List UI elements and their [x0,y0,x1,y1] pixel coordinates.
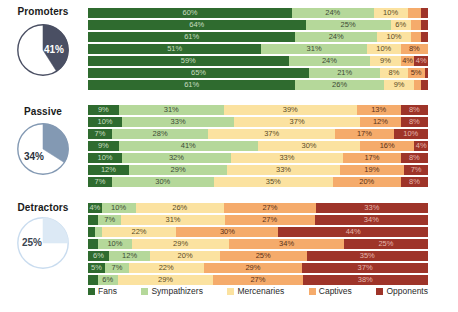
bar-segment-mercenaries: 29% [118,275,214,285]
bar-row: 5%7%22%29%37% [88,263,428,273]
bar-segment-fans: 12% [88,165,129,175]
segment-value-label: 7% [111,263,122,273]
bar-row: 12%29%33%19%7% [88,165,428,175]
bar-segment-fans: 7% [88,129,112,139]
bar-segment-captives: 13% [357,105,401,115]
segment-value-label: 10% [383,8,398,18]
segment-value-label: 26% [172,203,187,213]
bar-segment-fans: 6% [88,251,109,261]
segment-value-label: 29% [171,165,186,175]
segment-value-label: 31% [307,44,322,54]
bar-segment-sympathizers: 30% [112,177,214,187]
legend-label: Fans [98,286,117,296]
pie-detractors: 25% [8,215,78,271]
segment-value-label: 8% [389,68,400,78]
bar-segment-captives: 5% [408,68,425,78]
bar-segment-sympathizers: 7% [98,215,121,225]
bar-segment-fans: 61% [88,32,295,42]
segment-value-label: 8% [409,105,420,115]
bar-segment-fans [88,215,98,225]
bar-segment-opponents [421,20,428,30]
bar-row: 7%28%37%17%10% [88,129,428,139]
bar-row: 6%12%20%25%35% [88,251,428,261]
segment-value-label: 27% [250,275,265,285]
bar-segment-opponents: 37% [302,263,428,273]
bar-segment-captives: 27% [224,203,316,213]
segment-value-label: 30% [301,141,316,151]
segment-value-label: 6% [395,20,406,30]
bar-segment-mercenaries: 10% [377,32,411,42]
bar-row: 4%10%26%27%33% [88,203,428,213]
segment-value-label: 22% [131,227,146,237]
bar-segment-mercenaries: 8% [380,68,407,78]
legend-label: Opponents [386,286,428,296]
bar-segment-mercenaries: 26% [136,203,224,213]
segment-value-label: 16% [380,141,395,151]
legend: FansSympathizersMercenariesCaptivesOppon… [88,286,428,296]
bar-segment-captives [411,32,421,42]
segment-value-label: 12% [101,165,116,175]
pie-passive: 34% [8,121,78,177]
bar-segment-sympathizers: 26% [295,80,383,90]
legend-swatch-icon [309,288,316,295]
segment-value-label: 33% [171,117,186,127]
bar-segment-fans: 9% [88,141,119,151]
segment-value-label: 22% [159,263,174,273]
segment-value-label: 17% [357,129,372,139]
segment-value-label: 25% [341,20,356,30]
segment-value-label: 29% [173,239,188,249]
bar-segment-sympathizers: 24% [289,56,371,66]
bar-segment-sympathizers: 24% [295,32,377,42]
bar-segment-mercenaries: 6% [391,20,411,30]
bar-row: 7%30%35%20%8% [88,177,428,187]
segment-value-label: 61% [184,32,199,42]
bar-segment-mercenaries: 29% [132,239,230,249]
bar-segment-fans: 5% [88,263,105,273]
segment-value-label: 35% [266,177,281,187]
bar-row: 64%25%6% [88,20,428,30]
segment-value-label: 27% [262,203,277,213]
segment-value-label: 6% [93,251,104,261]
segment-value-label: 13% [371,105,386,115]
bar-segment-opponents: 7% [404,165,428,175]
segment-value-label: 32% [169,153,184,163]
segment-value-label: 7% [95,129,106,139]
bar-segment-mercenaries: 37% [234,117,360,127]
segment-value-label: 34% [279,239,294,249]
segment-value-label: 7% [411,165,422,175]
bar-segment-captives: 25% [220,251,307,261]
segment-value-label: 25% [256,251,271,261]
legend-item-captives: Captives [309,286,352,296]
bar-segment-opponents: 38% [303,275,428,285]
segment-value-label: 4% [416,56,427,66]
segment-value-label: 37% [290,117,305,127]
segment-value-label: 4% [402,56,413,66]
bar-row: 60%24%10% [88,8,428,18]
bar-segment-fans: 59% [88,56,289,66]
bar-segment-captives [408,8,422,18]
segment-value-label: 25% [378,239,393,249]
legend-swatch-icon [141,288,148,295]
bar-segment-opponents [421,80,428,90]
segment-value-label: 24% [329,32,344,42]
group-passive: Passive 34% 9%31%39%13%8%10%33%37%12%8%7… [0,103,458,199]
pie-detractors-svg [15,215,71,271]
segment-value-label: 65% [191,68,206,78]
bar-segment-fans: 61% [88,80,295,90]
bar-segment-sympathizers: 31% [119,105,224,115]
segment-value-label: 38% [358,275,373,285]
segment-value-label: 26% [332,80,347,90]
bar-row: 22%30%44% [88,227,428,237]
segment-value-label: 30% [220,227,235,237]
segment-value-label: 5% [411,68,422,78]
bar-segment-mercenaries: 33% [227,165,339,175]
bars-detractors: 4%10%26%27%33%7%31%27%34%22%30%44%10%29%… [88,203,428,287]
legend-swatch-icon [88,288,95,295]
segment-value-label: 9% [98,141,109,151]
bar-segment-sympathizers: 25% [306,20,391,30]
legend-label: Sympathizers [151,286,203,296]
bar-segment-opponents: 8% [401,177,428,187]
segment-value-label: 37% [264,129,279,139]
bar-segment-sympathizers: 10% [98,239,132,249]
bar-row: 10%32%33%17%8% [88,153,428,163]
